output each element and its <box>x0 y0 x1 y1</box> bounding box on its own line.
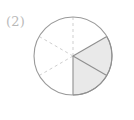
figure-container: (2) <box>0 0 134 120</box>
divider-upper-left-diagonal <box>39 37 73 57</box>
fraction-circle-diagram <box>0 0 134 120</box>
divider-lower-left-diagonal <box>39 56 73 76</box>
